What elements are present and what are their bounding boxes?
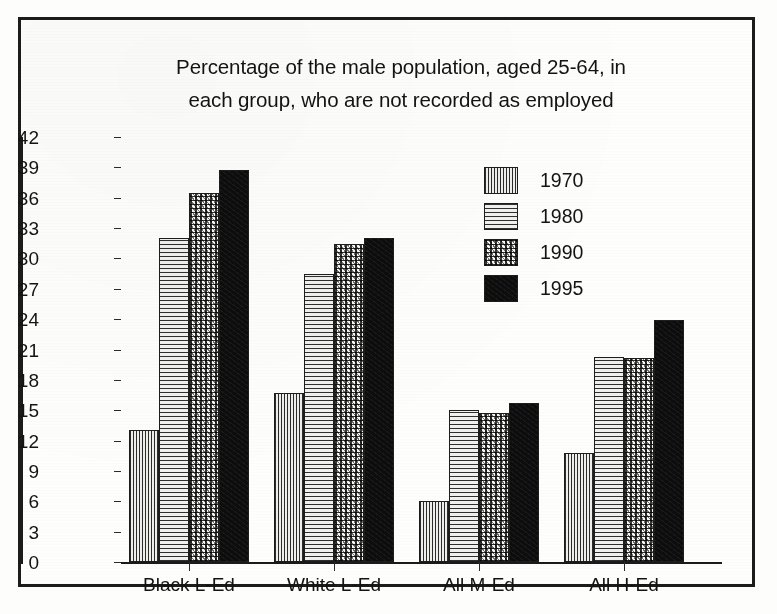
- y-axis-tick: [114, 228, 121, 229]
- chart-title-line-1: Percentage of the male population, aged …: [81, 50, 721, 83]
- y-axis-tick-label: 42: [0, 128, 39, 147]
- chart-legend: 1970198019901995: [484, 162, 583, 306]
- bar-white-l-ed-1995: [364, 238, 394, 562]
- y-axis-tick: [114, 532, 121, 533]
- bar-all-m-ed-1980: [449, 410, 479, 562]
- y-axis-tick-label: 36: [0, 189, 39, 208]
- x-axis-category-label: White L-Ed: [287, 574, 381, 596]
- y-axis-tick-label: 27: [0, 280, 39, 299]
- chart-title: Percentage of the male population, aged …: [81, 50, 721, 116]
- bar-all-m-ed-1970: [419, 501, 449, 562]
- chart-frame: Percentage of the male population, aged …: [18, 17, 755, 587]
- y-axis-tick: [114, 167, 121, 168]
- y-axis-tick: [114, 198, 121, 199]
- y-axis-tick: [114, 289, 121, 290]
- y-axis-tick: [114, 501, 121, 502]
- x-axis-tick: [479, 562, 480, 571]
- y-axis-tick: [114, 410, 121, 411]
- y-axis-tick: [114, 258, 121, 259]
- bar-white-l-ed-1970: [274, 393, 304, 562]
- bar-black-l-ed-1990: [189, 193, 219, 562]
- legend-label-1995: 1995: [540, 278, 583, 298]
- chart-title-line-2: each group, who are not recorded as empl…: [81, 83, 721, 116]
- legend-item-1990: 1990: [484, 234, 583, 270]
- legend-label-1970: 1970: [540, 170, 583, 190]
- y-axis-tick-label: 21: [0, 341, 39, 360]
- y-axis-tick-label: 30: [0, 249, 39, 268]
- bar-all-m-ed-1995: [509, 403, 539, 562]
- y-axis-tick-label: 12: [0, 432, 39, 451]
- x-axis-line: [121, 562, 722, 564]
- y-axis-tick: [114, 380, 121, 381]
- x-axis-category-label: Black L-Ed: [143, 574, 235, 596]
- chart-screenshot: Percentage of the male population, aged …: [0, 0, 777, 614]
- x-axis-category-label: All M-Ed: [443, 574, 515, 596]
- y-axis-tick-label: 9: [0, 462, 39, 481]
- y-axis-tick: [114, 350, 121, 351]
- legend-swatch-1970: [484, 167, 518, 194]
- x-axis-tick: [334, 562, 335, 571]
- bar-all-h-ed-1980: [594, 357, 624, 562]
- y-axis-tick: [114, 319, 121, 320]
- legend-item-1980: 1980: [484, 198, 583, 234]
- plot-area: 03691215182124273033363942Black L-EdWhit…: [121, 137, 721, 562]
- bar-black-l-ed-1995: [219, 170, 249, 562]
- bar-all-h-ed-1995: [654, 320, 684, 562]
- bar-all-h-ed-1970: [564, 453, 594, 562]
- bar-black-l-ed-1980: [159, 238, 189, 562]
- y-axis-tick-label: 39: [0, 158, 39, 177]
- y-axis-tick: [114, 441, 121, 442]
- y-axis-tick-label: 18: [0, 371, 39, 390]
- x-axis-tick: [189, 562, 190, 571]
- legend-item-1970: 1970: [484, 162, 583, 198]
- x-axis-category-label: All H-Ed: [589, 574, 659, 596]
- y-axis-tick: [114, 471, 121, 472]
- legend-label-1980: 1980: [540, 206, 583, 226]
- y-axis-tick-label: 15: [0, 401, 39, 420]
- y-axis-tick-label: 0: [0, 553, 39, 572]
- bar-white-l-ed-1980: [304, 274, 334, 562]
- bar-all-m-ed-1990: [479, 413, 509, 562]
- y-axis-tick: [114, 137, 121, 138]
- y-axis-tick-label: 33: [0, 219, 39, 238]
- y-axis-tick-label: 3: [0, 523, 39, 542]
- bar-white-l-ed-1990: [334, 244, 364, 562]
- legend-swatch-1995: [484, 275, 518, 302]
- legend-swatch-1990: [484, 239, 518, 266]
- bar-black-l-ed-1970: [129, 430, 159, 562]
- y-axis-tick-label: 6: [0, 492, 39, 511]
- x-axis-tick: [624, 562, 625, 571]
- y-axis-tick: [114, 562, 121, 563]
- legend-label-1990: 1990: [540, 242, 583, 262]
- bar-all-h-ed-1990: [624, 358, 654, 562]
- legend-item-1995: 1995: [484, 270, 583, 306]
- y-axis-tick-label: 24: [0, 310, 39, 329]
- legend-swatch-1980: [484, 203, 518, 230]
